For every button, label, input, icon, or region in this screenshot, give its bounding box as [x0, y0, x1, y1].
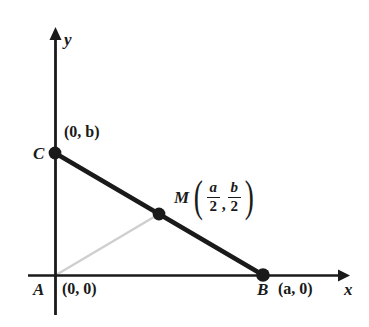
point-label-m: M: [174, 189, 189, 206]
x-axis-label: x: [344, 281, 353, 298]
median-segment-a-to-m: [56, 214, 159, 275]
point-label-c: C: [33, 145, 44, 162]
point-dot-c: [49, 147, 62, 160]
m-coords-separator: ,: [222, 197, 226, 215]
point-coords-c: (0, b): [64, 124, 100, 140]
m-x-numerator: a: [208, 180, 220, 196]
m-y-denominator: 2: [229, 199, 241, 215]
diagram-canvas: [0, 0, 369, 327]
m-x-fraction: a 2: [207, 180, 220, 215]
m-y-numerator: b: [229, 180, 241, 196]
point-label-m-with-coords: M ( a 2 , b 2 ): [174, 180, 256, 215]
point-label-a: A: [33, 281, 44, 298]
point-label-b: B: [257, 281, 268, 298]
point-dot-m: [153, 208, 166, 221]
m-close-paren: ): [245, 180, 254, 214]
point-coords-b: (a, 0): [278, 281, 313, 297]
m-x-denominator: 2: [208, 199, 220, 215]
y-axis-arrowhead-icon: [50, 27, 62, 40]
y-axis-label: y: [64, 31, 72, 48]
m-y-fraction: b 2: [228, 180, 241, 215]
coordinate-geometry-figure: y x C A B (0, b) (0, 0) (a, 0) M ( a 2 ,…: [0, 0, 369, 327]
m-open-paren: (: [194, 180, 203, 214]
point-coords-a: (0, 0): [62, 281, 97, 297]
